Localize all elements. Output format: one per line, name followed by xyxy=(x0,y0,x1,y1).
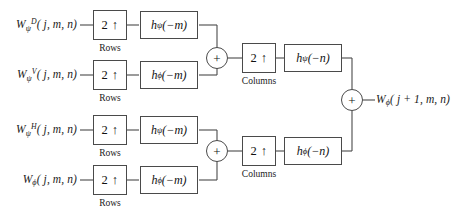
row-filter-1-hpsi[interactable]: hψ(−m) xyxy=(140,11,198,39)
row-filter-3-hpsi[interactable]: hψ(−m) xyxy=(140,116,198,144)
row-filter-1-arg: (−m) xyxy=(162,18,187,33)
row-upsampler-3-caption: Rows xyxy=(99,148,121,158)
output-args: ( j + 1, m, n) xyxy=(390,93,450,105)
row-upsampler-2-caption: Rows xyxy=(99,93,121,103)
input-args-wd: ( j, m, n) xyxy=(37,18,77,30)
input-args-wv: ( j, m, n) xyxy=(37,68,77,80)
column-upsampler-2-label: 2 ↑ xyxy=(250,144,267,159)
column-filter-2-hphi[interactable]: hϕ(−n) xyxy=(284,137,342,165)
input-args-wh: ( j, m, n) xyxy=(37,123,77,135)
row-filter-2-hphi[interactable]: hϕ(−m) xyxy=(140,61,198,89)
input-args-wphi: ( j, m, n) xyxy=(37,173,77,185)
row-upsampler-3[interactable]: 2 ↑ xyxy=(93,115,127,145)
adder-top-label: + xyxy=(213,52,220,65)
input-label-wv: WψV( j, m, n) xyxy=(17,67,77,82)
column-upsampler-1-label: 2 ↑ xyxy=(250,51,267,66)
input-label-wd: WψD( j, m, n) xyxy=(16,17,77,32)
input-label-wphi: Wϕ( j, m, n) xyxy=(23,173,77,188)
row-upsampler-1-caption: Rows xyxy=(99,43,121,53)
column-upsampler-2[interactable]: 2 ↑ xyxy=(242,136,276,166)
row-upsampler-1[interactable]: 2 ↑ xyxy=(93,10,127,40)
row-upsampler-3-label: 2 ↑ xyxy=(101,123,118,138)
column-upsampler-1[interactable]: 2 ↑ xyxy=(242,43,276,73)
row-filter-3-arg: (−m) xyxy=(162,123,187,138)
column-filter-2-arg: (−n) xyxy=(307,144,329,159)
column-filter-1-arg: (−n) xyxy=(308,51,330,66)
row-filter-4-hphi[interactable]: hϕ(−m) xyxy=(140,166,198,194)
adder-final-label: + xyxy=(348,94,355,107)
adder-bottom-label: + xyxy=(213,145,220,158)
wavelet-synthesis-diagram: WψD( j, m, n) WψV( j, m, n) WψH( j, m, n… xyxy=(0,0,471,212)
column-filter-1-hpsi[interactable]: hψ(−n) xyxy=(284,44,342,72)
output-label: Wϕ( j + 1, m, n) xyxy=(376,93,450,108)
adder-final[interactable]: + xyxy=(341,89,363,111)
adder-bottom[interactable]: + xyxy=(206,140,228,162)
row-upsampler-4[interactable]: 2 ↑ xyxy=(93,165,127,195)
input-label-wh: WψH( j, m, n) xyxy=(16,122,77,137)
row-upsampler-4-caption: Rows xyxy=(99,198,121,208)
row-filter-4-arg: (−m) xyxy=(162,173,187,188)
row-upsampler-4-label: 2 ↑ xyxy=(101,173,118,188)
column-upsampler-2-caption: Columns xyxy=(242,169,276,179)
row-filter-2-arg: (−m) xyxy=(162,68,187,83)
adder-top[interactable]: + xyxy=(206,47,228,69)
column-upsampler-1-caption: Columns xyxy=(242,76,276,86)
row-upsampler-2-label: 2 ↑ xyxy=(101,68,118,83)
row-upsampler-2[interactable]: 2 ↑ xyxy=(93,60,127,90)
row-upsampler-1-label: 2 ↑ xyxy=(101,18,118,33)
